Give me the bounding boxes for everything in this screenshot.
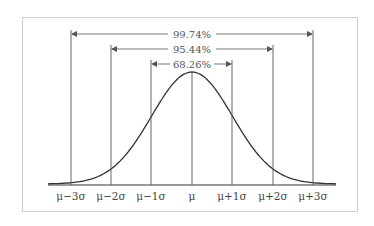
pct-99-74: 99.74% [173, 29, 211, 40]
tick-labels: μ−3σ μ−2σ μ−1σ μ μ+1σ μ+2σ μ+3σ [56, 190, 327, 202]
tick-plus-1sigma: μ+1σ [217, 190, 246, 202]
pct-68-26: 68.26% [173, 59, 211, 70]
tick-plus-3sigma: μ+3σ [298, 190, 327, 202]
tick-plus-2sigma: μ+2σ [258, 190, 287, 202]
normal-distribution-diagram: 99.74% 95.44% 68.26% μ−3σ μ−2σ μ−1σ μ μ+… [0, 0, 374, 226]
pct-95-44: 95.44% [173, 44, 211, 55]
tick-minus-3sigma: μ−3σ [56, 190, 85, 202]
tick-minus-1sigma: μ−1σ [136, 190, 165, 202]
tick-minus-2sigma: μ−2σ [96, 190, 125, 202]
tick-mu: μ [189, 190, 196, 202]
